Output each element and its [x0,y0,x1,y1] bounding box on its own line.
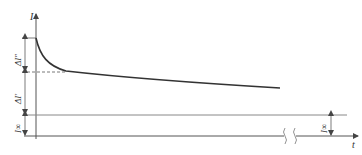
decay-curve [36,38,280,88]
x-axis-label: t [352,139,355,150]
steady-state-right-label: I∞ [319,124,329,134]
current-decay-diagram: I t ΔI″ ΔI′ I∞ I∞ [0,0,362,155]
steady-state-left-label: I∞ [13,124,23,134]
y-axis-label: I [29,11,34,22]
delta-subtransient-label: ΔI″ [13,54,23,67]
delta-transient-label: ΔI′ [13,93,23,105]
